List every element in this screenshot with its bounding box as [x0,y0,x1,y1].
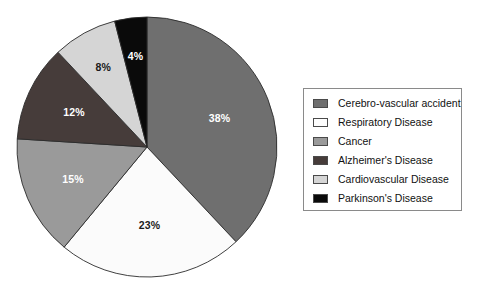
legend-swatch-icon [313,137,328,146]
legend-swatch-icon [313,118,328,127]
legend-item[interactable]: Cerebro-vascular accident [304,94,461,113]
pie-slice-value-label: 4% [128,50,144,62]
legend-item-label: Cerebro-vascular accident [338,98,461,109]
legend-swatch-icon [313,175,328,184]
legend-item-label: Alzheimer's Disease [338,155,433,166]
pie-slice-value-label: 12% [63,106,85,118]
legend-item-label: Parkinson's Disease [338,193,433,204]
pie-slices-group [17,17,277,277]
pie-slice-value-label: 15% [62,173,84,185]
legend-swatch-icon [313,194,328,203]
pie-slice-value-label: 38% [209,112,231,124]
pie-chart-area: 38%23%15%12%8%4% [0,0,300,301]
legend-item-label: Respiratory Disease [338,117,433,128]
legend-swatch-icon [313,156,328,165]
legend-item[interactable]: Respiratory Disease [304,113,461,132]
legend-item[interactable]: Alzheimer's Disease [304,151,461,170]
legend-item-label: Cancer [338,136,372,147]
legend-item-label: Cardiovascular Disease [338,174,449,185]
legend-item[interactable]: Parkinson's Disease [304,189,461,208]
legend-swatch-icon [313,99,328,108]
legend-item[interactable]: Cardiovascular Disease [304,170,461,189]
pie-slice-value-label: 8% [95,61,111,73]
chart-legend: Cerebro-vascular accident Respiratory Di… [303,88,462,211]
legend-item[interactable]: Cancer [304,132,461,151]
pie-slice-value-label: 23% [139,219,161,231]
pie-chart-figure: 38%23%15%12%8%4% Cerebro-vascular accide… [0,0,484,301]
pie-svg: 38%23%15%12%8%4% [0,0,300,301]
